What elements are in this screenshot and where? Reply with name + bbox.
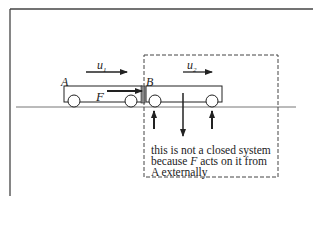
cart-b	[146, 86, 222, 107]
caption-line-3: A externally	[151, 167, 281, 178]
label-velocity-b: u2	[187, 59, 197, 74]
caption-text: this is not a closed system because F ac…	[151, 145, 281, 178]
label-body-b: B	[146, 76, 153, 88]
label-body-a: A	[61, 76, 68, 88]
label-force-f: F	[96, 90, 104, 103]
label-velocity-a: u1	[97, 59, 107, 74]
contact-plate	[141, 86, 145, 103]
